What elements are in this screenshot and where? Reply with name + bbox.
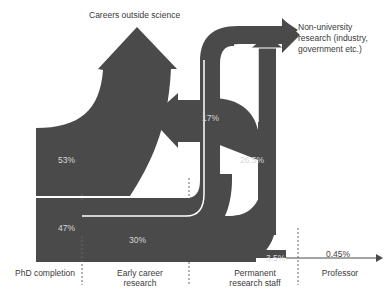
pct-perm: 26.5% — [240, 155, 264, 165]
pct-staff: 3.5% — [266, 253, 285, 263]
stage-early-label-2: research — [100, 278, 180, 288]
flow-outside-science — [36, 27, 177, 196]
stage-permanent: Permanent research staff — [215, 268, 295, 288]
pct-nonuni: 17% — [202, 113, 219, 123]
stage-professor-label: Professor — [322, 268, 358, 278]
stage-phd-label: PhD completion — [15, 268, 75, 278]
flow-permanent-trunk — [258, 45, 276, 235]
stage-phd: PhD completion — [10, 268, 80, 278]
label-nonuni-2: research (industry, — [298, 33, 368, 43]
stage-permanent-label-2: research staff — [215, 278, 295, 288]
professor-arrowhead — [376, 254, 383, 262]
pct-prof: 0.45% — [326, 249, 350, 259]
stage-early-label-1: Early career — [100, 268, 180, 278]
label-nonuni-1: Non-university — [298, 22, 352, 32]
stage-early: Early career research — [100, 268, 180, 288]
pct-stay: 47% — [58, 223, 75, 233]
stage-professor: Professor — [310, 268, 370, 278]
pct-early: 30% — [129, 235, 146, 245]
stage-permanent-label-1: Permanent — [215, 268, 295, 278]
label-nonuni-3: government etc.) — [298, 44, 362, 54]
label-careers-outside: Careers outside science — [89, 10, 180, 20]
pct-outside: 53% — [58, 155, 75, 165]
